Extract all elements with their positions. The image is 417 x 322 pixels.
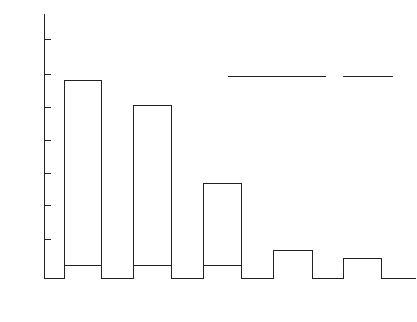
tick-12 (45, 140, 51, 141)
table-header (228, 76, 326, 77)
tick-21 (45, 39, 51, 40)
tick-9 (45, 173, 51, 174)
bar-weight (133, 105, 172, 279)
n-label (273, 265, 313, 279)
n-label (133, 265, 172, 279)
n-label (203, 265, 242, 279)
tick-18 (45, 74, 51, 75)
bar-cholesterol (64, 80, 102, 279)
tick-6 (45, 205, 51, 206)
table-header (343, 76, 393, 77)
n-label (343, 265, 382, 279)
tick-3 (45, 239, 51, 240)
tick-15 (45, 107, 51, 108)
n-label (64, 265, 102, 279)
